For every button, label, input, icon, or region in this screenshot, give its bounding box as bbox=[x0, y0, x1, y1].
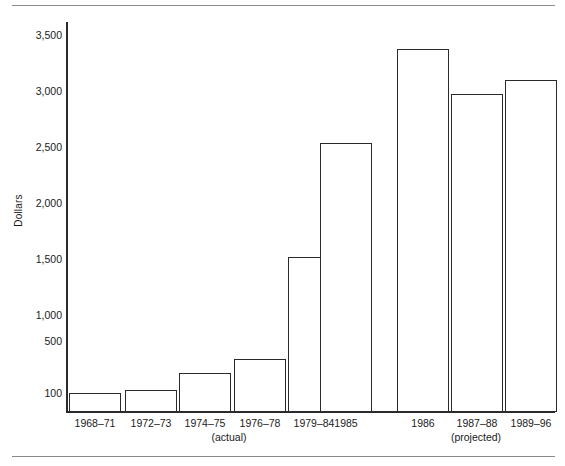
x-tick-1987-88: 1987–88 bbox=[451, 417, 503, 429]
bar-1986 bbox=[397, 49, 449, 412]
group-label-projected: (projected) bbox=[426, 431, 526, 443]
x-tick-1974-75: 1974–75 bbox=[179, 417, 231, 429]
x-tick-1972-73: 1972–73 bbox=[125, 417, 177, 429]
x-tick-1976-78: 1976–78 bbox=[234, 417, 286, 429]
bar-chart-figure: Dollars 3,500 3,000 2,500 2,000 1,500 1,… bbox=[0, 0, 565, 466]
bar-1976-78 bbox=[234, 359, 286, 412]
bar-series bbox=[0, 0, 565, 466]
x-tick-1985: 1985 bbox=[320, 417, 372, 429]
bar-1989-96 bbox=[505, 80, 557, 412]
x-tick-1968-71: 1968–71 bbox=[69, 417, 121, 429]
bar-1985 bbox=[320, 143, 372, 412]
x-tick-1986: 1986 bbox=[397, 417, 449, 429]
x-tick-1989-96: 1989–96 bbox=[505, 417, 557, 429]
bar-1987-88 bbox=[451, 94, 503, 412]
bar-1974-75 bbox=[179, 373, 231, 412]
bar-1972-73 bbox=[125, 390, 177, 412]
group-label-actual: (actual) bbox=[179, 431, 279, 443]
bar-1968-71 bbox=[69, 393, 121, 412]
